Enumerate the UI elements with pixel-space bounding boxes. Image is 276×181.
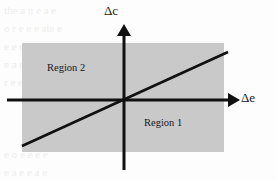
delta-c-label-text: Δc [104,3,118,18]
delta-c-axis-label: Δc [104,3,118,19]
delta-e-axis-label: Δe [241,90,255,106]
region-diagram-figure: the a u e a e o r e e e ate e e e e e a … [0,0,276,181]
delta-e-arrowhead-icon [228,93,240,107]
delta-c-arrowhead-icon [117,24,131,36]
delta-e-label-text: Δe [241,90,255,105]
diagram-canvas [0,0,276,181]
region-2-label: Region 2 [47,62,85,73]
region-1-label: Region 1 [144,117,182,128]
